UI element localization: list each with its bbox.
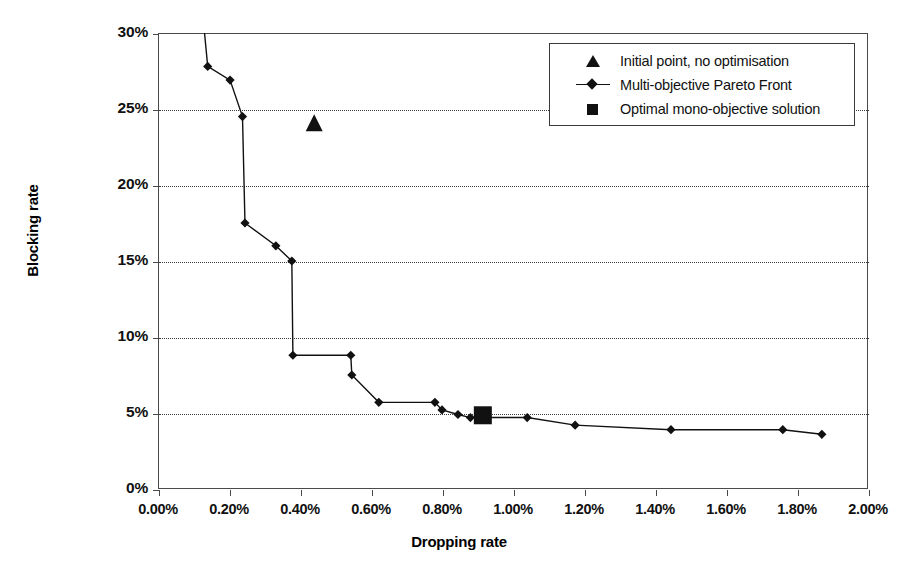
x-axis-tick — [869, 490, 870, 496]
x-axis-tick — [727, 490, 728, 496]
triangle-marker-icon — [574, 51, 614, 71]
x-axis-tick — [372, 490, 373, 496]
chart-figure: 0%5%10%15%20%25%30% Blocking rate 0.00%0… — [0, 0, 918, 577]
legend-item-pareto-front: Multi-objective Pareto Front — [550, 73, 854, 97]
line-diamond-marker-icon — [574, 75, 614, 95]
x-axis-title: Dropping rate — [0, 533, 918, 550]
gridline — [159, 338, 869, 339]
y-axis-tick-label: 0% — [78, 479, 148, 497]
x-axis-tick — [798, 490, 799, 496]
gridline — [159, 186, 869, 187]
y-axis-tick-label: 15% — [78, 251, 148, 269]
x-axis-tick — [585, 490, 586, 496]
x-axis-tick — [656, 490, 657, 496]
y-axis-tick — [153, 34, 159, 35]
y-axis-tick-label: 25% — [78, 99, 148, 117]
y-axis-tick — [153, 262, 159, 263]
y-axis-tick — [153, 338, 159, 339]
legend-item-label: Multi-objective Pareto Front — [620, 77, 792, 93]
x-axis-tick — [230, 490, 231, 496]
gridline — [159, 414, 869, 415]
y-axis-tick-label: 10% — [78, 327, 148, 345]
y-axis-tick — [153, 186, 159, 187]
x-axis-tick-label: 2.00% — [823, 501, 913, 517]
legend-item-label: Optimal mono-objective solution — [620, 101, 820, 117]
legend-item-label: Initial point, no optimisation — [620, 53, 789, 69]
legend-item-initial-point: Initial point, no optimisation — [550, 49, 854, 73]
y-axis-tick — [153, 110, 159, 111]
y-axis-tick-label: 20% — [78, 175, 148, 193]
x-axis-tick — [443, 490, 444, 496]
gridline — [159, 262, 869, 263]
square-marker-icon — [574, 99, 614, 119]
x-axis-tick — [301, 490, 302, 496]
y-axis-tick-label: 30% — [78, 23, 148, 41]
x-axis-tick — [159, 490, 160, 496]
x-axis-tick — [514, 490, 515, 496]
chart-legend: Initial point, no optimisation Multi-obj… — [549, 43, 855, 126]
y-axis-tick-label: 5% — [78, 403, 148, 421]
legend-item-optimal-mono: Optimal mono-objective solution — [550, 97, 854, 121]
y-axis-title: Blocking rate — [24, 141, 41, 321]
y-axis-tick — [153, 414, 159, 415]
